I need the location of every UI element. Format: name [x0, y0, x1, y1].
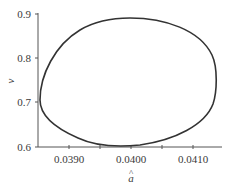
x-tick-label-0.0400: 0.0400 [116, 153, 147, 165]
y-tick-label-0.8: 0.8 [17, 52, 31, 64]
x-tick-label-0.0410: 0.0410 [178, 153, 209, 165]
x-tick-label-0.0390: 0.0390 [54, 153, 85, 165]
orbit-curve [40, 18, 216, 146]
x-axis-label: a [128, 172, 134, 184]
chart-canvas: 0.9 0.8 0.7 0.6 0.0390 0.0400 0.0410 v ^… [0, 0, 230, 189]
y-tick-label-0.6: 0.6 [17, 141, 31, 153]
y-axis-label: v [4, 78, 16, 83]
y-tick-label-0.7: 0.7 [17, 96, 31, 108]
y-tick-label-0.9: 0.9 [17, 8, 31, 20]
